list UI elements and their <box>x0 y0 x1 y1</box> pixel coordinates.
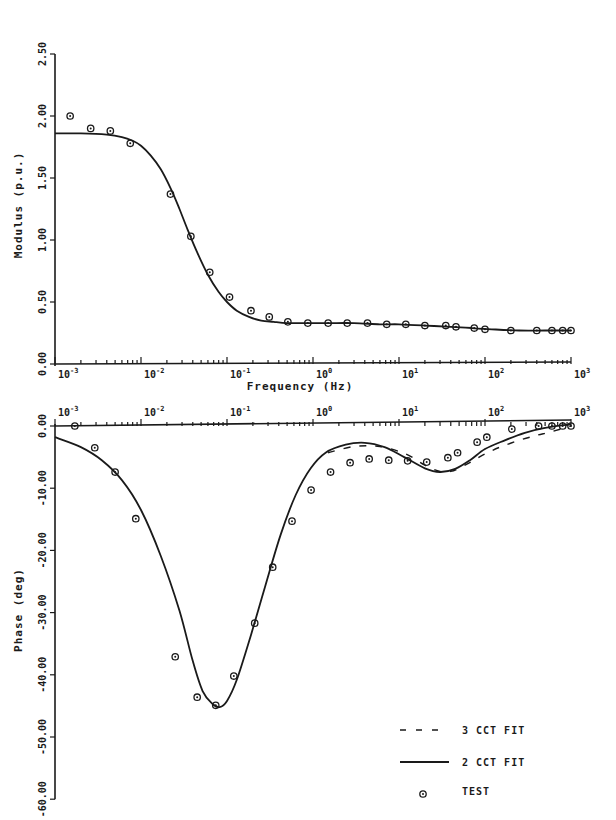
test-data-point-center <box>174 656 176 658</box>
test-data-point-center <box>407 460 409 462</box>
test-data-point-center <box>388 459 390 461</box>
test-data-point-center <box>346 322 348 324</box>
test-data-point-center <box>551 425 553 427</box>
test-data-point-center <box>445 325 447 327</box>
test-data-point-center <box>476 441 478 443</box>
x-tick-label: 10-3 <box>58 367 78 380</box>
test-data-point-center <box>570 425 572 427</box>
test-data-point-center <box>447 457 449 459</box>
legend: 3 CCT FIT 2 CCT FIT TEST <box>400 725 525 797</box>
y-tick-label: 2.50 <box>37 42 48 66</box>
legend-label-3cct: 3 CCT FIT <box>462 725 525 736</box>
frequency-x-axis-title: Frequency (Hz) <box>247 380 354 393</box>
x-tick-label: 102 <box>488 405 504 418</box>
phase-2cct-fit-curve <box>55 424 571 707</box>
test-data-point-center <box>90 127 92 129</box>
test-data-point-center <box>426 461 428 463</box>
test-data-point-center <box>291 520 293 522</box>
x-tick-label: 101 <box>402 367 418 380</box>
test-data-point-center <box>349 462 351 464</box>
test-data-point-center <box>268 316 270 318</box>
y-tick-label: 1.00 <box>37 228 48 252</box>
test-data-point-center <box>511 428 513 430</box>
test-data-point-center <box>69 115 71 117</box>
test-data-point-center <box>74 425 76 427</box>
test-data-point-center <box>486 436 488 438</box>
test-data-point-center <box>114 471 116 473</box>
test-data-point-center <box>233 675 235 677</box>
x-tick-label: 100 <box>316 367 332 380</box>
x-tick-label: 102 <box>488 367 504 380</box>
test-data-point-center <box>310 489 312 491</box>
x-tick-label: 103 <box>574 367 590 380</box>
x-tick-label: 10-2 <box>144 367 164 380</box>
test-data-point-center <box>510 330 512 332</box>
test-data-point-center <box>457 452 459 454</box>
test-data-point-center <box>538 425 540 427</box>
test-data-point-center <box>307 322 309 324</box>
x-tick-label: 10-1 <box>230 405 250 418</box>
test-data-point-center <box>330 471 332 473</box>
y-tick-label: 2.00 <box>37 104 48 128</box>
y-tick-label: 1.50 <box>37 166 48 190</box>
legend-label-test: TEST <box>462 786 490 797</box>
test-data-point-center <box>109 130 111 132</box>
test-data-point-center <box>209 271 211 273</box>
test-data-point-center <box>94 447 96 449</box>
y-tick-label: 0.50 <box>37 290 48 314</box>
test-data-point-center <box>368 458 370 460</box>
test-data-point-center <box>536 330 538 332</box>
test-data-point-center <box>215 704 217 706</box>
legend-marker-test-dot <box>422 793 424 795</box>
test-data-point-center <box>135 518 137 520</box>
modulus-fit-curve <box>55 133 571 330</box>
phase-y-axis-title: Phase (deg) <box>12 568 25 652</box>
test-data-point-center <box>169 193 171 195</box>
test-data-point-center <box>405 323 407 325</box>
phase-3cct-fit-curve <box>328 426 571 472</box>
y-tick-label: -40.00 <box>37 657 48 693</box>
x-tick-label: 101 <box>402 405 418 418</box>
test-data-point-center <box>473 327 475 329</box>
modulus-plot: 10-310-210-11001011021030.000.501.001.50… <box>12 42 590 393</box>
test-data-point-center <box>562 330 564 332</box>
y-tick-label: 0.00 <box>37 414 48 438</box>
modulus-y-axis-title: Modulus (p.u.) <box>12 152 25 259</box>
test-data-point-center <box>366 322 368 324</box>
y-tick-label: -60.00 <box>37 781 48 817</box>
bode-plot: 10-310-210-11001011021030.000.501.001.50… <box>0 0 616 820</box>
phase-plot: 10-310-210-11001011021030.00-10.00-20.00… <box>12 405 590 817</box>
test-data-point-center <box>327 322 329 324</box>
y-tick-label: -10.00 <box>37 470 48 506</box>
test-data-point-center <box>254 622 256 624</box>
x-tick-label: 10-2 <box>144 405 164 418</box>
test-data-point-center <box>424 325 426 327</box>
test-data-point-center <box>570 330 572 332</box>
test-data-point-center <box>190 235 192 237</box>
y-tick-label: 0.00 <box>37 352 48 376</box>
x-tick-label: 103 <box>574 405 590 418</box>
test-data-point-center <box>272 566 274 568</box>
test-data-point-center <box>196 696 198 698</box>
x-tick-label: 100 <box>316 405 332 418</box>
legend-label-2cct: 2 CCT FIT <box>462 757 525 768</box>
test-data-point-center <box>484 328 486 330</box>
test-data-point-center <box>129 142 131 144</box>
x-tick-label: 10-3 <box>58 405 78 418</box>
test-data-point-center <box>562 425 564 427</box>
y-tick-label: -30.00 <box>37 595 48 631</box>
test-data-point-center <box>386 323 388 325</box>
y-tick-label: -50.00 <box>37 719 48 755</box>
test-data-point-center <box>229 296 231 298</box>
y-tick-label: -20.00 <box>37 532 48 568</box>
test-data-point-center <box>287 321 289 323</box>
test-data-point-center <box>250 310 252 312</box>
test-data-point-center <box>551 330 553 332</box>
x-tick-label: 10-1 <box>230 367 250 380</box>
test-data-point-center <box>455 326 457 328</box>
